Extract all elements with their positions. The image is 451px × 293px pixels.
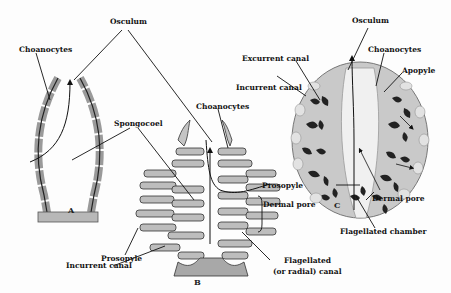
label-osculum-ab: Osculum: [110, 18, 147, 26]
label-spongocoel: Spongocoel: [114, 120, 163, 128]
label-flagellated-canal-2: (or radial) canal: [273, 268, 341, 276]
label-apopyle: Apopyle: [402, 67, 435, 75]
caption-c: C: [334, 200, 340, 210]
diagram-drawing: [0, 0, 451, 293]
label-prosopyle-c: Prosopyle: [262, 182, 303, 190]
label-flagellated-canal-1: Flagellated: [284, 257, 331, 265]
label-choanocytes-a: Choanocytes: [19, 46, 72, 54]
label-dermal-pore-c: Dermal pore: [372, 195, 424, 203]
sponge-diagram: Osculum Choanocytes Spongocoel Choanocyt…: [0, 0, 451, 293]
label-choanocytes-b: Choanocytes: [196, 103, 249, 111]
caption-a: A: [68, 205, 74, 215]
caption-b: B: [194, 277, 201, 287]
label-choanocytes-c: Choanocytes: [368, 46, 421, 54]
label-incurrent-canal-c: Incurrent canal: [236, 84, 302, 92]
label-dermal-pore-b: Dermal pore: [263, 201, 315, 209]
label-excurrent-canal: Excurrent canal: [242, 55, 309, 63]
label-flagellated-chamber: Flagellated chamber: [340, 228, 426, 236]
syconoid-body: [136, 120, 280, 276]
label-incurrent-canal-b: Incurrent canal: [66, 262, 132, 270]
label-osculum-c: Osculum: [352, 17, 389, 25]
